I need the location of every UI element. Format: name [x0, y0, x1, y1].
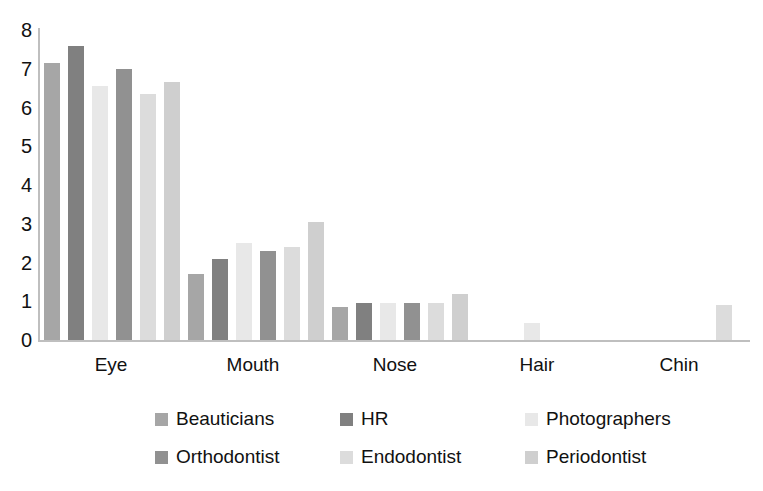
bar[interactable] [428, 303, 444, 340]
bar-slot [740, 30, 756, 340]
bar[interactable] [116, 69, 132, 340]
bar[interactable] [716, 305, 732, 340]
category-label-hair: Hair [466, 352, 608, 382]
legend-label: Periodontist [546, 446, 646, 468]
bar-slot [644, 30, 660, 340]
bar[interactable] [68, 46, 84, 341]
bar[interactable] [308, 222, 324, 340]
bar-group-chin [616, 30, 760, 340]
legend-swatch-icon [525, 451, 538, 464]
bar-slot [44, 30, 60, 340]
bar-slot [548, 30, 564, 340]
legend-item-hr[interactable]: HR [340, 408, 525, 430]
bar[interactable] [260, 251, 276, 340]
bar-slot [620, 30, 636, 340]
bar-slot [428, 30, 444, 340]
bar-slot [188, 30, 204, 340]
x-axis-category-labels: EyeMouthNoseHairChin [40, 352, 750, 382]
legend-item-endodontist[interactable]: Endodontist [340, 446, 525, 468]
bar-slot [380, 30, 396, 340]
bar-slot [356, 30, 372, 340]
bar[interactable] [356, 303, 372, 340]
bar-slot [500, 30, 516, 340]
legend-label: HR [361, 408, 388, 430]
bar-slot [212, 30, 228, 340]
bar[interactable] [92, 86, 108, 340]
legend-label: Beauticians [176, 408, 274, 430]
chart-legend: BeauticiansHRPhotographersOrthodontistEn… [155, 408, 695, 468]
bar-slot [236, 30, 252, 340]
bar[interactable] [44, 63, 60, 340]
bar-slot [452, 30, 468, 340]
legend-item-periodontist[interactable]: Periodontist [525, 446, 715, 468]
bar[interactable] [452, 294, 468, 341]
category-label-nose: Nose [324, 352, 466, 382]
bar-slot [116, 30, 132, 340]
bar[interactable] [284, 247, 300, 340]
bar[interactable] [188, 274, 204, 340]
y-axis-tick-label: 4 [6, 175, 32, 195]
bar-slot [404, 30, 420, 340]
bar-slot [476, 30, 492, 340]
category-label-chin: Chin [608, 352, 750, 382]
y-axis-tick-label: 5 [6, 136, 32, 156]
y-axis-tick-labels: 876543210 [0, 0, 32, 491]
bar[interactable] [404, 303, 420, 340]
bar-slot [332, 30, 348, 340]
category-label-mouth: Mouth [182, 352, 324, 382]
bar-slot [164, 30, 180, 340]
bar[interactable] [524, 323, 540, 340]
legend-item-photographers[interactable]: Photographers [525, 408, 715, 430]
bar[interactable] [380, 303, 396, 340]
legend-swatch-icon [340, 413, 353, 426]
y-axis-tick-label: 2 [6, 253, 32, 273]
bar-slot [524, 30, 540, 340]
bar-slot [260, 30, 276, 340]
bar-slot [572, 30, 588, 340]
legend-item-orthodontist[interactable]: Orthodontist [155, 446, 340, 468]
category-label-eye: Eye [40, 352, 182, 382]
bar[interactable] [332, 307, 348, 340]
bar-slot [692, 30, 708, 340]
bar-slot [68, 30, 84, 340]
bar-group-eye [40, 30, 184, 340]
y-axis-tick-label: 0 [6, 330, 32, 350]
y-axis-tick-label: 3 [6, 214, 32, 234]
bar[interactable] [212, 259, 228, 340]
bar[interactable] [164, 82, 180, 340]
bar-slot [716, 30, 732, 340]
y-axis-tick-label: 6 [6, 98, 32, 118]
y-axis-tick-label: 1 [6, 291, 32, 311]
legend-swatch-icon [340, 451, 353, 464]
legend-label: Endodontist [361, 446, 461, 468]
bar-group-hair [472, 30, 616, 340]
legend-label: Photographers [546, 408, 671, 430]
legend-swatch-icon [155, 413, 168, 426]
bar-slot [284, 30, 300, 340]
bar-slot [308, 30, 324, 340]
legend-swatch-icon [155, 451, 168, 464]
bar-group-nose [328, 30, 472, 340]
legend-item-beauticians[interactable]: Beauticians [155, 408, 340, 430]
y-axis-tick-label: 7 [6, 59, 32, 79]
x-axis-line [38, 340, 750, 342]
bar-slot [596, 30, 612, 340]
bar[interactable] [140, 94, 156, 340]
bar-group-mouth [184, 30, 328, 340]
bar-slot [140, 30, 156, 340]
legend-label: Orthodontist [176, 446, 280, 468]
bar-slot [92, 30, 108, 340]
legend-swatch-icon [525, 413, 538, 426]
bar-slot [668, 30, 684, 340]
bar[interactable] [236, 243, 252, 340]
bar-chart: 876543210 EyeMouthNoseHairChin Beauticia… [0, 0, 763, 491]
plot-bars-layer [40, 30, 750, 340]
y-axis-tick-label: 8 [6, 20, 32, 40]
